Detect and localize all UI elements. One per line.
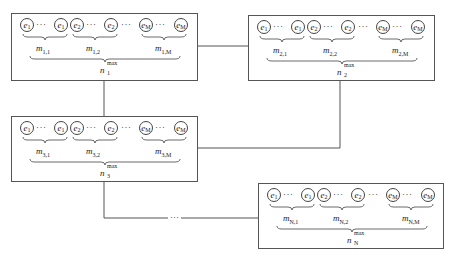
inline-dots: ···	[36, 121, 47, 133]
element-circle: e2	[341, 20, 355, 34]
group-label: m3,2	[86, 146, 100, 158]
inline-dots: ···	[402, 188, 413, 200]
inline-dots: ···	[121, 18, 132, 30]
total-brace	[29, 158, 181, 166]
element-circle: e2	[104, 18, 118, 32]
total-label: nmax1	[100, 65, 105, 75]
element-circle: e2	[307, 20, 321, 34]
element-circle: e2	[70, 121, 84, 135]
element-circle: eM	[376, 20, 390, 34]
element-circle: e2	[317, 188, 331, 202]
inline-dots: ···	[155, 18, 166, 30]
edge-node3-nodeN	[104, 181, 258, 218]
inline-dots: ···	[368, 188, 379, 200]
element-circle: eM	[421, 188, 435, 202]
element-circle: e1	[267, 188, 281, 202]
total-brace	[29, 55, 181, 63]
group-label: m1,2	[86, 43, 100, 55]
element-circle: e1	[54, 18, 68, 32]
inline-dots: ···	[273, 20, 284, 32]
group-brace	[269, 203, 315, 211]
inline-dots: ···	[86, 121, 97, 133]
edge-node2-node3	[197, 80, 340, 148]
element-circle: eM	[411, 20, 425, 34]
element-circle: e2	[70, 18, 84, 32]
element-circle: eM	[386, 188, 400, 202]
element-circle: eM	[174, 121, 188, 135]
total-label: nmaxN	[347, 235, 352, 245]
group-label: m2,1	[273, 45, 287, 57]
node-box-1: e1 ··· e1 e2 ··· e2 ··· eM ··· eM m1,1 m…	[11, 13, 198, 81]
element-circle: e1	[257, 20, 271, 34]
group-label: mN,2	[333, 213, 348, 225]
inline-dots: ···	[283, 188, 294, 200]
inline-dots: ···	[121, 121, 132, 133]
group-label: m1,1	[36, 43, 50, 55]
diagram-canvas: ··· e1 ··· e1 e2 ··· e2 ··· eM ··· eM m1…	[0, 0, 451, 258]
element-circle: e1	[291, 20, 305, 34]
group-brace	[378, 35, 424, 43]
total-label: nmax2	[337, 67, 342, 77]
group-brace	[141, 33, 187, 41]
element-circle: e2	[351, 188, 365, 202]
element-circle: e2	[104, 121, 118, 135]
group-label: m2,2	[323, 45, 337, 57]
group-brace	[319, 203, 365, 211]
node-box-N: e1 ··· e1 e2 ··· e2 ··· eM ··· eM mN,1 m…	[258, 183, 444, 249]
inline-dots: ···	[155, 121, 166, 133]
group-label: m1,M	[155, 43, 171, 55]
element-circle: eM	[174, 18, 188, 32]
group-brace	[259, 35, 305, 43]
inline-dots: ···	[333, 188, 344, 200]
group-brace	[72, 33, 118, 41]
element-circle: e1	[20, 121, 34, 135]
group-label: m3,M	[155, 146, 171, 158]
inline-dots: ···	[392, 20, 403, 32]
element-circle: eM	[139, 121, 153, 135]
group-label: m3,1	[36, 146, 50, 158]
group-label: mN,1	[283, 213, 298, 225]
inline-dots: ···	[86, 18, 97, 30]
element-circle: e1	[301, 188, 315, 202]
total-brace	[276, 225, 428, 233]
inline-dots: ···	[358, 20, 369, 32]
element-circle: eM	[139, 18, 153, 32]
node-box-2: e1 ··· e1 e2 ··· e2 ··· eM ··· eM m2,1 m…	[248, 15, 435, 81]
total-brace	[266, 57, 418, 65]
group-label: mN,M	[402, 213, 420, 225]
group-brace	[22, 33, 68, 41]
total-label: nmax3	[100, 168, 105, 178]
group-brace	[141, 136, 187, 144]
group-brace	[388, 203, 434, 211]
group-brace	[72, 136, 118, 144]
connector-ellipsis: ···	[168, 213, 181, 221]
group-label: m2,M	[392, 45, 408, 57]
element-circle: e1	[54, 121, 68, 135]
element-circle: e1	[20, 18, 34, 32]
group-brace	[22, 136, 68, 144]
inline-dots: ···	[36, 18, 47, 30]
node-box-3: e1 ··· e1 e2 ··· e2 ··· eM ··· eM m3,1 m…	[11, 116, 198, 182]
group-brace	[309, 35, 355, 43]
inline-dots: ···	[323, 20, 334, 32]
